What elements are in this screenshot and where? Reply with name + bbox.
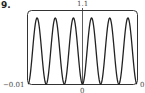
x-center-label: 0 (80, 88, 84, 93)
plot-area (0, 0, 145, 93)
y-max-label: 1.1 (77, 1, 88, 8)
x-max-label: 0 (140, 82, 144, 89)
x-min-label: −0.01 (3, 82, 24, 89)
